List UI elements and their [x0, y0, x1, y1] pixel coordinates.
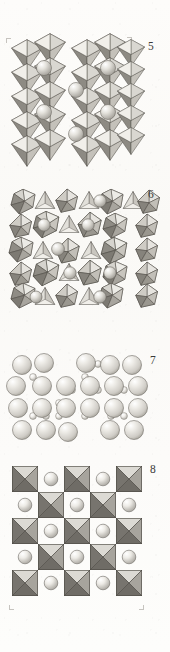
figure-number-8: 8	[150, 464, 156, 476]
figure-8-description: Ideal cubic perovskite projection: check…	[0, 620, 1, 621]
figure-6: 6	[0, 185, 170, 320]
figure-number-7: 7	[150, 355, 156, 367]
figure-6-description: Dense tilted octahedral/tetrahedral fram…	[0, 320, 1, 321]
figure-7-artwork	[0, 352, 170, 448]
crop-mark-top-left	[6, 38, 12, 44]
crop-mark-bottom-right	[138, 604, 144, 610]
figure-8-artwork	[0, 460, 170, 620]
figure-6-artwork	[0, 185, 170, 320]
figure-6-polyhedral-framework	[9, 189, 160, 308]
figure-5-octahedral-framework	[12, 34, 145, 167]
figure-5-artwork	[0, 30, 170, 175]
figure-5: 5	[0, 30, 170, 175]
figure-7: 7	[0, 352, 170, 448]
figure-5-description: Corner-sharing tilted octahedra framewor…	[0, 175, 1, 176]
figure-8-octahedra-checkerboard	[12, 466, 142, 596]
figure-7-large-anion-spheres	[7, 354, 148, 442]
figure-number-6: 6	[148, 189, 154, 201]
figure-number-5: 5	[148, 41, 154, 53]
crop-mark-top-right	[126, 37, 132, 43]
figure-7-description: Close-packed ball-and-stick / space-fill…	[0, 448, 1, 449]
figure-8: 8	[0, 460, 170, 620]
page-canvas: 5	[0, 0, 170, 652]
crop-mark-bottom-left	[9, 604, 15, 610]
